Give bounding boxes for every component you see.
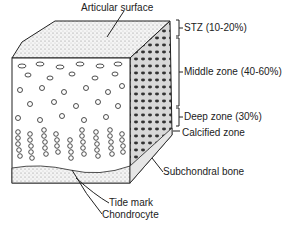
label-stz: STZ (10-20%): [184, 22, 247, 33]
label-subchondral-bone: Subchondral bone: [163, 166, 244, 177]
label-articular-surface: Articular surface: [81, 2, 153, 13]
label-tide-mark: Tide mark: [109, 197, 153, 208]
label-middle-zone: Middle zone (40-60%): [184, 66, 282, 77]
label-chondrocyte: Chondrocyte: [102, 209, 159, 220]
label-deep-zone: Deep zone (30%): [184, 111, 262, 122]
label-calcified-zone: Calcified zone: [182, 127, 245, 138]
